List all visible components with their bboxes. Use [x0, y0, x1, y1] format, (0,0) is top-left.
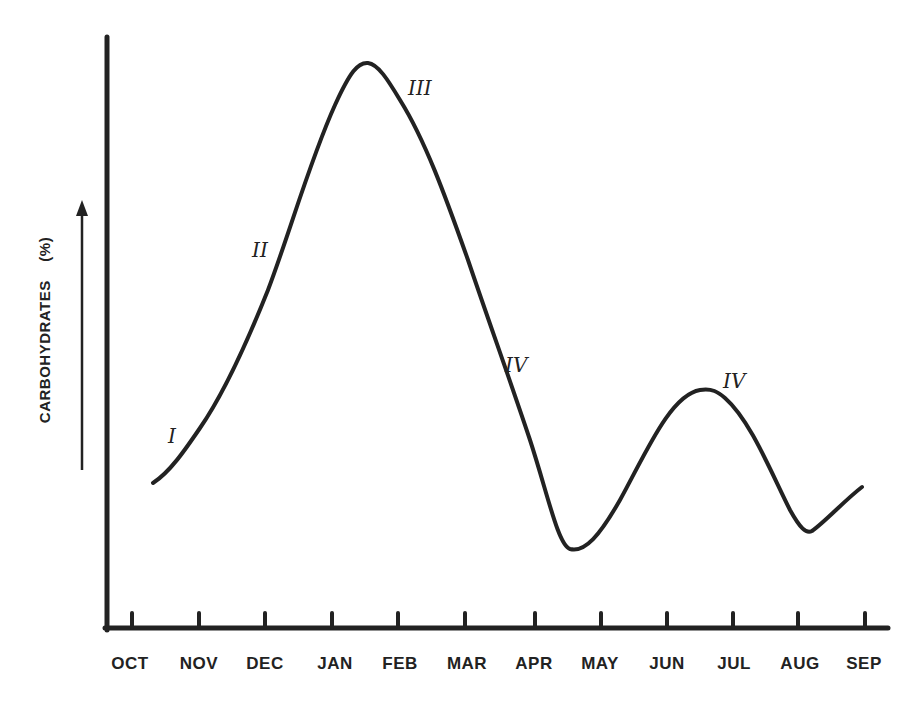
month-label-nov: NOV [180, 654, 218, 674]
month-label-jun: JUN [649, 654, 685, 674]
month-label-mar: MAR [447, 654, 487, 674]
phase-label-i: I [168, 424, 176, 448]
month-label-may: MAY [581, 654, 619, 674]
month-label-jan: JAN [317, 654, 353, 674]
y-axis-label-text: CARBOHYDRATES [36, 280, 53, 423]
phase-label-ii: II [252, 238, 268, 262]
phase-label-iii: III [408, 76, 432, 100]
carbohydrate-seasonal-chart [0, 0, 920, 720]
month-label-apr: APR [515, 654, 552, 674]
month-label-dec: DEC [246, 654, 283, 674]
y-axis-label-unit: (%) [36, 237, 53, 262]
y-arrow-head-icon [76, 200, 88, 216]
month-label-feb: FEB [382, 654, 418, 674]
month-label-jul: JUL [717, 654, 751, 674]
carbohydrate-curve [153, 63, 862, 550]
month-label-sep: SEP [846, 654, 882, 674]
phase-label-iv-falling: IV [505, 353, 527, 377]
y-axis-label: CARBOHYDRATES (%) [36, 237, 53, 423]
phase-label-iv-secondary: IV [723, 369, 745, 393]
month-label-oct: OCT [111, 654, 148, 674]
month-label-aug: AUG [780, 654, 819, 674]
